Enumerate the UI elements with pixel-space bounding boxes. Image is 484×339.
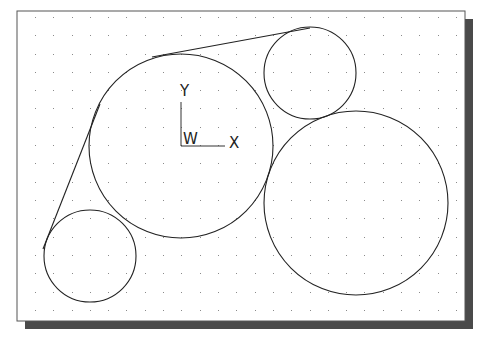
ucs-w-label: W: [183, 130, 198, 148]
frame-shadow-right: [465, 19, 473, 329]
drawing-frame: [17, 11, 465, 321]
frame-shadow-bottom: [25, 321, 473, 329]
cad-drawing-canvas[interactable]: Y W X: [0, 0, 484, 339]
ucs-x-label: X: [229, 134, 239, 152]
ucs-y-label: Y: [179, 82, 190, 100]
